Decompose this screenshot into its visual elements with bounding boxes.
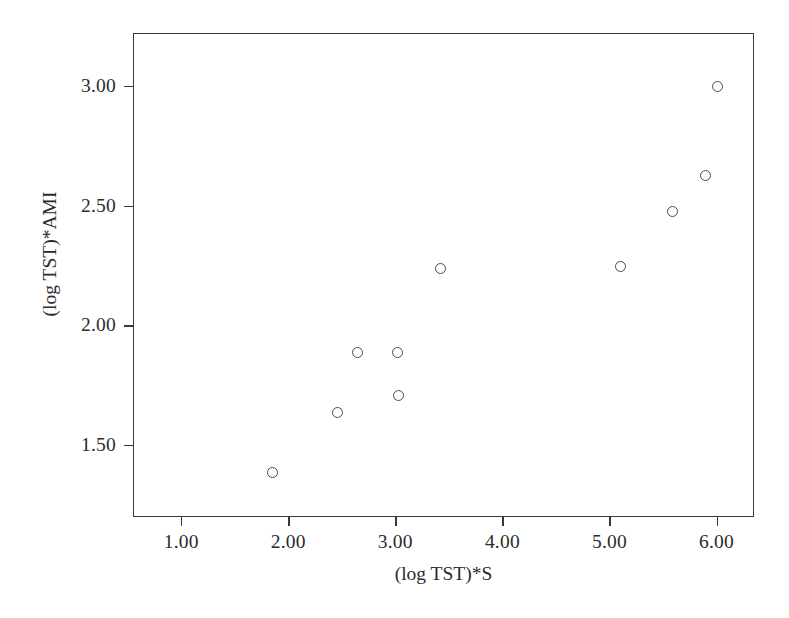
x-tick-mark — [717, 517, 718, 526]
data-point — [267, 467, 278, 478]
data-point — [393, 390, 404, 401]
x-tick-label: 1.00 — [136, 531, 226, 553]
data-point — [712, 81, 723, 92]
scatter-plot-figure: 1.002.003.004.005.006.00 1.502.002.503.0… — [0, 0, 789, 618]
x-tick-label: 3.00 — [350, 531, 440, 553]
data-point — [392, 347, 403, 358]
x-tick-mark — [502, 517, 503, 526]
plot-frame — [133, 33, 754, 517]
data-point — [700, 170, 711, 181]
y-tick-mark — [124, 445, 133, 446]
x-tick-mark — [609, 517, 610, 526]
data-point — [332, 407, 343, 418]
data-point — [615, 261, 626, 272]
plot-area — [134, 34, 753, 516]
x-tick-mark — [181, 517, 182, 526]
x-tick-label: 6.00 — [672, 531, 762, 553]
x-axis-title: (log TST)*S — [133, 563, 754, 585]
x-tick-label: 2.00 — [243, 531, 333, 553]
x-tick-mark — [288, 517, 289, 526]
data-point — [435, 263, 446, 274]
data-point — [352, 347, 363, 358]
x-tick-mark — [395, 517, 396, 526]
data-point — [667, 206, 678, 217]
y-tick-mark — [124, 325, 133, 326]
x-tick-label: 4.00 — [457, 531, 547, 553]
y-axis-title: (log TST)*AMI — [39, 54, 61, 454]
x-tick-label: 5.00 — [564, 531, 654, 553]
y-tick-mark — [124, 86, 133, 87]
y-tick-mark — [124, 206, 133, 207]
